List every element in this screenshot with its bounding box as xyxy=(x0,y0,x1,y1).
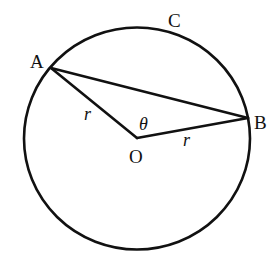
label-radius-oa: r xyxy=(84,104,92,124)
radius-ob xyxy=(137,118,248,138)
label-point-b: B xyxy=(254,112,267,133)
label-center-o: O xyxy=(129,146,143,167)
circle-diagram: A C B O θ r r xyxy=(0,0,276,263)
label-point-a: A xyxy=(30,51,44,72)
label-radius-ob: r xyxy=(183,130,191,150)
label-circle-c: C xyxy=(168,10,181,31)
label-angle-theta: θ xyxy=(139,114,148,134)
